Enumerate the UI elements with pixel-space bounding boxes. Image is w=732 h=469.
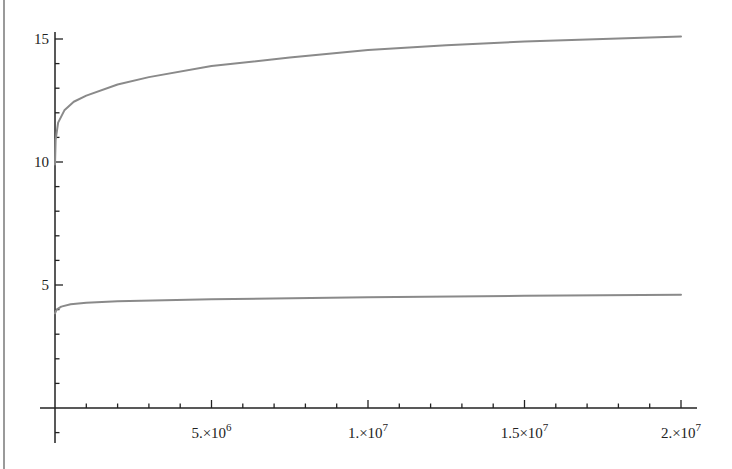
series-line-lower (55, 295, 681, 313)
y-tick-label: 5 (42, 277, 50, 293)
x-tick-label: 5.×106 (191, 421, 232, 441)
plot-area (55, 37, 681, 314)
line-chart: 5.×1061.×1071.5×1072.×10751015 (0, 0, 732, 469)
x-tick-label: 2.×107 (661, 421, 702, 441)
series-line-upper (55, 37, 681, 165)
x-tick-label: 1.5×107 (501, 421, 549, 441)
y-tick-label: 15 (34, 31, 49, 47)
x-tick-label: 1.×107 (348, 421, 389, 441)
axes: 5.×1061.×1071.5×1072.×10751015 (34, 31, 702, 443)
y-tick-label: 10 (34, 154, 49, 170)
